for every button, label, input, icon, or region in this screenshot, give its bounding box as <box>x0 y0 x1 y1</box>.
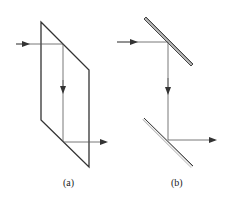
panel-b: (b) <box>117 17 215 189</box>
label-a: (a) <box>63 177 74 189</box>
panel-a: (a) <box>16 22 106 189</box>
lower-mirror <box>142 118 193 168</box>
diagram-canvas: (a) (b) <box>0 0 227 205</box>
label-b: (b) <box>171 177 183 189</box>
upper-mirror <box>144 17 193 66</box>
